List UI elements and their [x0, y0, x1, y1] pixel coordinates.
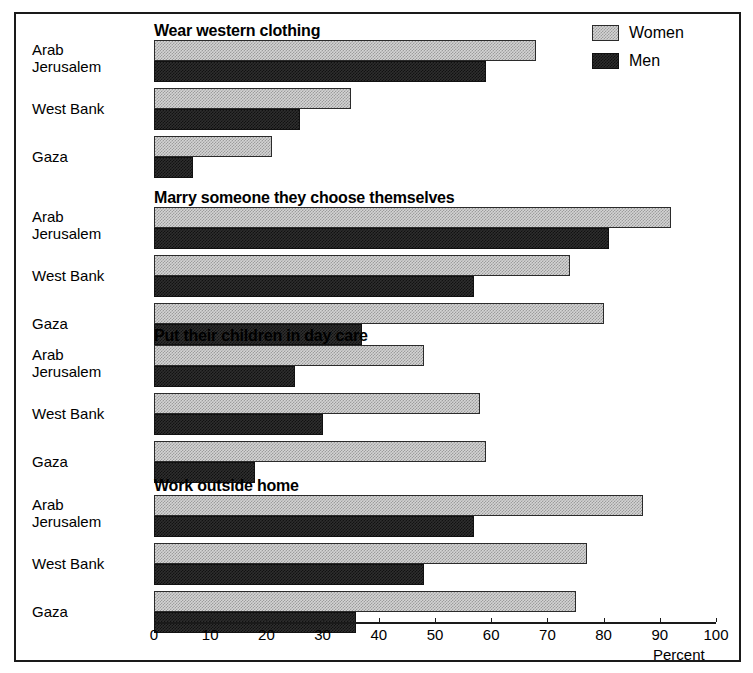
bar-women-p3-c1 — [154, 345, 424, 366]
category-label-arab-jerusalem-p2: ArabJerusalem — [32, 208, 101, 242]
x-tick-label-90: 90 — [635, 626, 685, 643]
bar-women-p2-c1 — [154, 207, 671, 228]
x-tick-label-70: 70 — [522, 626, 572, 643]
bar-men-p1-c2 — [154, 109, 300, 130]
x-tick-20 — [266, 618, 267, 622]
legend-label-men: Men — [629, 52, 660, 70]
x-tick-40 — [379, 618, 380, 622]
x-tick-label-50: 50 — [410, 626, 460, 643]
category-label-line1: Arab — [32, 496, 101, 513]
category-label-gaza-p1: Gaza — [32, 148, 68, 165]
legend-label-women: Women — [629, 24, 684, 42]
x-tick-70 — [547, 618, 548, 622]
x-tick-label-40: 40 — [354, 626, 404, 643]
category-label-line2: Jerusalem — [32, 58, 101, 75]
bar-men-p4-c1 — [154, 516, 474, 537]
panel-title-1: Wear western clothing — [154, 22, 320, 40]
bar-men-p2-c1 — [154, 228, 609, 249]
category-label-line1: Arab — [32, 41, 101, 58]
bar-women-p1-c2 — [154, 88, 351, 109]
category-label-west-bank-p1: West Bank — [32, 100, 104, 117]
category-label-gaza-p4: Gaza — [32, 603, 68, 620]
category-label-line2: Jerusalem — [32, 225, 101, 242]
category-label-line2: Jerusalem — [32, 363, 101, 380]
x-tick-label-100: 100 — [691, 626, 741, 643]
x-tick-30 — [323, 618, 324, 622]
category-label-gaza-p2: Gaza — [32, 315, 68, 332]
category-label-arab-jerusalem-p1: ArabJerusalem — [32, 41, 101, 75]
legend-swatch-men — [592, 53, 619, 69]
bar-men-p1-c1 — [154, 61, 486, 82]
bar-men-p2-c2 — [154, 276, 474, 297]
bar-women-p4-c2 — [154, 543, 587, 564]
x-tick-100 — [716, 618, 717, 622]
category-label-line2: Jerusalem — [32, 513, 101, 530]
category-label-gaza-p3: Gaza — [32, 453, 68, 470]
bar-men-p4-c2 — [154, 564, 424, 585]
category-label-line1: Arab — [32, 346, 101, 363]
x-tick-90 — [660, 618, 661, 622]
bar-men-p3-c2 — [154, 414, 323, 435]
chart-frame: Wear western clothingArabJerusalemWest B… — [14, 12, 741, 662]
legend-item-men: Men — [592, 52, 702, 70]
x-tick-label-60: 60 — [466, 626, 516, 643]
x-tick-50 — [435, 618, 436, 622]
category-label-arab-jerusalem-p4: ArabJerusalem — [32, 496, 101, 530]
x-tick-10 — [210, 618, 211, 622]
legend-swatch-women — [592, 25, 619, 41]
x-tick-label-80: 80 — [579, 626, 629, 643]
category-label-west-bank-p3: West Bank — [32, 405, 104, 422]
bar-women-p3-c2 — [154, 393, 480, 414]
x-axis-title: Percent — [653, 646, 705, 663]
bar-men-p1-c3 — [154, 157, 193, 178]
bar-women-p2-c3 — [154, 303, 604, 324]
panel-title-2: Marry someone they choose themselves — [154, 189, 454, 207]
bar-men-p3-c1 — [154, 366, 295, 387]
bar-women-p2-c2 — [154, 255, 570, 276]
bar-women-p4-c3 — [154, 591, 576, 612]
x-axis-line — [154, 622, 716, 624]
x-tick-80 — [604, 618, 605, 622]
x-tick-label-30: 30 — [298, 626, 348, 643]
panel-title-3: Put their children in day care — [154, 327, 368, 345]
category-label-west-bank-p4: West Bank — [32, 555, 104, 572]
x-tick-label-20: 20 — [241, 626, 291, 643]
bar-women-p1-c3 — [154, 136, 272, 157]
x-tick-60 — [491, 618, 492, 622]
x-tick-label-10: 10 — [185, 626, 235, 643]
bar-women-p3-c3 — [154, 441, 486, 462]
bar-women-p4-c1 — [154, 495, 643, 516]
bar-women-p1-c1 — [154, 40, 536, 61]
category-label-line1: Arab — [32, 208, 101, 225]
category-label-west-bank-p2: West Bank — [32, 267, 104, 284]
panel-title-4: Work outside home — [154, 477, 299, 495]
plot-area: Wear western clothingArabJerusalemWest B… — [16, 14, 739, 660]
legend-item-women: Women — [592, 24, 702, 42]
category-label-arab-jerusalem-p3: ArabJerusalem — [32, 346, 101, 380]
x-tick-label-0: 0 — [129, 626, 179, 643]
